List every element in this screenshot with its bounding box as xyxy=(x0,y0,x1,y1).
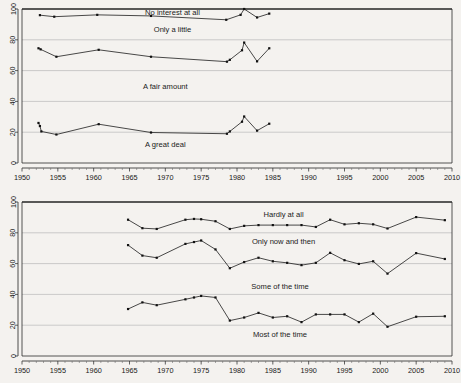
data-point-marker xyxy=(241,121,243,123)
data-point-marker xyxy=(98,49,100,51)
data-point-marker xyxy=(256,60,258,62)
data-point-marker xyxy=(268,47,270,49)
x-axis-tick-label: 1995 xyxy=(336,173,352,182)
data-point-marker xyxy=(343,259,345,261)
x-axis-tick-label: 1950 xyxy=(14,173,30,182)
data-point-marker xyxy=(300,224,302,226)
data-point-marker xyxy=(156,304,158,306)
data-point-marker xyxy=(39,14,41,16)
data-point-marker xyxy=(127,219,129,221)
data-point-marker xyxy=(358,222,360,224)
data-point-marker xyxy=(257,224,259,226)
x-axis-tick-label: 2000 xyxy=(372,366,388,375)
data-point-marker xyxy=(257,257,259,259)
data-point-marker xyxy=(386,273,388,275)
data-point-marker xyxy=(141,254,143,256)
data-point-marker xyxy=(225,19,227,21)
data-point-marker xyxy=(257,312,259,314)
x-axis-tick-label: 2000 xyxy=(372,173,388,182)
data-point-marker xyxy=(53,16,55,18)
data-point-marker xyxy=(156,228,158,230)
y-axis-tick-label: 20 xyxy=(9,321,18,329)
x-axis-tick-label: 1955 xyxy=(50,366,66,375)
series-annotation-label: Only now and then xyxy=(252,237,315,246)
data-point-marker xyxy=(415,216,417,218)
data-point-marker xyxy=(315,226,317,228)
data-point-marker xyxy=(156,257,158,259)
data-point-marker xyxy=(226,61,228,63)
x-axis-tick-label: 1985 xyxy=(265,173,281,182)
series-annotation-label: Most of the time xyxy=(253,330,307,339)
top-chart-svg: 0204060801001950195519601965197019751980… xyxy=(0,0,461,190)
data-point-marker xyxy=(444,258,446,260)
data-point-marker xyxy=(239,14,241,16)
data-point-marker xyxy=(286,315,288,317)
data-point-marker xyxy=(272,260,274,262)
x-axis-tick-label: 2005 xyxy=(408,366,424,375)
data-point-marker xyxy=(243,115,245,117)
series-annotation-label: Only a little xyxy=(154,25,192,34)
data-point-marker xyxy=(243,8,245,10)
data-point-marker xyxy=(226,133,228,135)
data-point-marker xyxy=(272,316,274,318)
data-point-marker xyxy=(200,218,202,220)
data-point-marker xyxy=(415,252,417,254)
data-point-marker xyxy=(300,321,302,323)
data-point-marker xyxy=(37,122,39,124)
data-point-marker xyxy=(286,262,288,264)
data-point-marker xyxy=(98,123,100,125)
data-point-marker xyxy=(229,59,231,61)
bottom-chart-svg: 0204060801001950195519601965197019751980… xyxy=(0,190,461,383)
data-point-marker xyxy=(268,123,270,125)
data-point-marker xyxy=(343,223,345,225)
x-axis-tick-label: 2005 xyxy=(408,173,424,182)
x-axis-tick-label: 1965 xyxy=(121,366,137,375)
data-point-marker xyxy=(55,133,57,135)
y-axis-tick-label: 0 xyxy=(9,354,18,358)
data-point-marker xyxy=(415,316,417,318)
data-point-marker xyxy=(55,56,57,58)
x-axis-tick-label: 1960 xyxy=(86,366,102,375)
data-point-marker xyxy=(268,13,270,15)
y-axis-tick-label: 80 xyxy=(9,229,18,237)
data-point-marker xyxy=(141,301,143,303)
x-axis-tick-label: 1995 xyxy=(336,366,352,375)
x-axis-tick-label: 1970 xyxy=(157,173,173,182)
data-point-marker xyxy=(315,313,317,315)
series-annotation-label: Some of the time xyxy=(251,282,308,291)
data-point-marker xyxy=(37,47,39,49)
y-axis-tick-label: 100 xyxy=(9,3,18,15)
data-point-marker xyxy=(272,224,274,226)
x-axis-tick-label: 1970 xyxy=(157,366,173,375)
y-axis-tick-label: 0 xyxy=(9,161,18,165)
data-point-marker xyxy=(214,248,216,250)
x-axis-tick-label: 1975 xyxy=(193,366,209,375)
y-axis-tick-label: 20 xyxy=(9,128,18,136)
data-point-marker xyxy=(444,315,446,317)
y-axis-tick-label: 40 xyxy=(9,97,18,105)
data-point-marker xyxy=(214,296,216,298)
data-point-marker xyxy=(343,313,345,315)
y-axis-tick-label: 40 xyxy=(9,290,18,298)
x-axis-tick-label: 1975 xyxy=(193,173,209,182)
data-point-marker xyxy=(300,264,302,266)
data-point-marker xyxy=(243,261,245,263)
y-axis-tick-label: 80 xyxy=(9,36,18,44)
y-axis-tick-label: 60 xyxy=(9,67,18,75)
x-axis-tick-label: 1950 xyxy=(14,366,30,375)
data-point-marker xyxy=(150,131,152,133)
series-line xyxy=(38,43,269,62)
data-point-marker xyxy=(372,260,374,262)
data-point-marker xyxy=(386,326,388,328)
data-point-marker xyxy=(200,295,202,297)
x-axis-tick-label: 2010 xyxy=(444,173,460,182)
data-point-marker xyxy=(372,313,374,315)
series-line xyxy=(38,116,269,134)
data-point-marker xyxy=(444,219,446,221)
data-point-marker xyxy=(241,49,243,51)
data-point-marker xyxy=(256,130,258,132)
data-point-marker xyxy=(229,319,231,321)
data-point-marker xyxy=(286,224,288,226)
x-axis-tick-label: 1980 xyxy=(229,366,245,375)
x-axis-tick-label: 1960 xyxy=(86,173,102,182)
